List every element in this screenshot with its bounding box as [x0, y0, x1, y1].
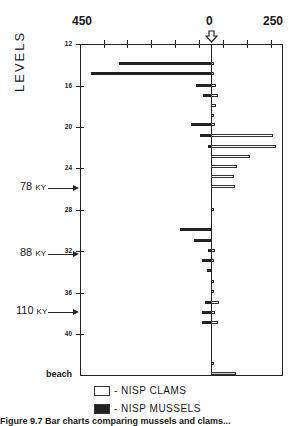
bar-clam	[211, 301, 219, 304]
annotation-78ky: 78 KY	[20, 180, 46, 192]
legend-label-clams: - NISP CLAMS	[114, 385, 187, 396]
bar-clam	[211, 208, 214, 211]
bar-clam	[211, 104, 216, 107]
bar-mussel	[203, 94, 211, 97]
bar-clam	[211, 280, 214, 283]
bar-clam	[211, 362, 214, 365]
bar-clam	[211, 259, 214, 262]
legend-swatch-open	[94, 386, 110, 396]
y-tick-label: 28	[52, 206, 72, 213]
bar-clam	[211, 62, 214, 65]
annotation-88ky: 88 KY	[20, 246, 46, 258]
top-axis-label-right: 250	[263, 14, 283, 28]
top-tick	[104, 40, 105, 48]
y-tick-label: 16	[52, 82, 72, 89]
bar-mussel	[202, 321, 211, 324]
top-tick	[175, 40, 176, 48]
bar-clam	[211, 134, 273, 137]
bar-mussel	[91, 72, 211, 75]
annotation-110ky: 110 KY	[16, 304, 47, 316]
y-axis-title: LEVELS	[12, 31, 27, 92]
arrow-head-icon	[73, 251, 79, 257]
bar-mussel	[200, 134, 211, 137]
top-tick	[271, 40, 272, 48]
bar-clam	[211, 145, 276, 148]
top-axis-label-left: 450	[72, 14, 92, 28]
top-tick	[127, 40, 128, 48]
y-tick	[76, 127, 84, 128]
bar-clam	[211, 94, 218, 97]
legend-label-mussels: - NISP MUSSELS	[114, 403, 201, 414]
y-tick	[76, 44, 84, 45]
y-tick-label: 36	[52, 289, 72, 296]
top-tick	[151, 40, 152, 48]
arrow-head-icon	[73, 185, 79, 191]
bar-clam	[211, 114, 214, 117]
top-axis-label-zero: 0	[206, 14, 213, 28]
y-tick-label: 12	[52, 40, 72, 47]
y-tick	[76, 210, 84, 211]
bar-clam	[211, 249, 215, 252]
figure-caption: Figure 9.7 Bar charts comparing mussels …	[0, 416, 231, 426]
y-tick	[76, 334, 84, 335]
legend-item-mussels: - NISP MUSSELS	[94, 403, 201, 414]
bar-mussel	[207, 269, 211, 272]
bar-clam	[211, 185, 235, 188]
y-tick-label: 24	[52, 164, 72, 171]
y-tick-label: 20	[52, 123, 72, 130]
zero-marker-arrow-icon	[205, 30, 218, 44]
annotation-arrow	[48, 254, 74, 255]
bar-clam	[211, 165, 237, 168]
plot-frame	[80, 44, 283, 376]
bar-clam	[211, 290, 214, 293]
legend-swatch-filled	[94, 404, 110, 414]
bar-mussel	[196, 84, 211, 87]
bar-clam-beach	[211, 372, 236, 375]
bar-mussel	[119, 62, 211, 65]
annotation-arrow	[48, 188, 74, 189]
top-tick	[223, 40, 224, 48]
bar-clam	[211, 175, 234, 178]
bar-mussel	[202, 259, 211, 262]
bar-clam	[211, 155, 250, 158]
annotation-arrow	[48, 312, 74, 313]
bar-mussel	[194, 239, 211, 242]
y-tick-label-beach: beach	[46, 369, 72, 379]
bar-clam	[211, 311, 215, 314]
y-tick-label: 32	[52, 247, 72, 254]
top-tick	[247, 40, 248, 48]
top-tick	[199, 40, 200, 48]
bar-clam	[211, 72, 214, 75]
bar-clam	[211, 123, 215, 126]
y-tick	[76, 86, 84, 87]
arrow-head-icon	[73, 309, 79, 315]
y-tick	[76, 168, 84, 169]
bar-mussel	[202, 311, 211, 314]
bar-mussel	[180, 228, 211, 231]
bar-clam	[211, 84, 216, 87]
bar-mussel	[191, 123, 211, 126]
y-tick-label: 40	[52, 330, 72, 337]
legend-item-clams: - NISP CLAMS	[94, 385, 187, 396]
y-tick	[76, 293, 84, 294]
bar-clam	[211, 321, 218, 324]
